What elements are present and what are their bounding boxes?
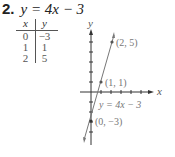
point-label-2-5: (2, 5) xyxy=(116,37,138,49)
x-axis-label: x xyxy=(156,85,162,97)
line-equation-label: y = 4x − 3 xyxy=(98,99,141,110)
y-axis-arrow-icon xyxy=(89,29,93,35)
point-label-1-1: (1, 1) xyxy=(105,77,127,89)
line-arrow-down-icon xyxy=(83,137,86,143)
point-2-5 xyxy=(110,40,113,43)
coordinate-graph: y x (2, 5) (1, 1) (0, −3) y = 4x − 3 xyxy=(0,0,175,157)
y-axis-label: y xyxy=(87,17,93,29)
point-1-1 xyxy=(99,80,102,83)
point-label-0-neg3: (0, −3) xyxy=(95,116,122,128)
line-arrow-up-icon xyxy=(112,32,115,38)
point-0-neg3 xyxy=(89,119,92,122)
x-axis-arrow-icon xyxy=(148,90,154,94)
